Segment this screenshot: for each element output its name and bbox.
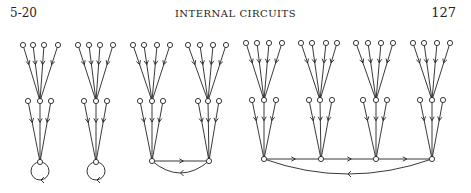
node xyxy=(25,98,30,103)
edge xyxy=(79,47,96,100)
node xyxy=(41,42,46,47)
node xyxy=(223,42,228,47)
node xyxy=(30,42,35,47)
node xyxy=(81,98,86,103)
edge xyxy=(33,48,40,101)
edge xyxy=(24,47,40,100)
node xyxy=(373,156,378,161)
node xyxy=(440,97,445,102)
node xyxy=(329,97,334,102)
node xyxy=(421,40,426,45)
edge xyxy=(144,48,152,101)
edge xyxy=(85,104,96,162)
edge xyxy=(368,46,376,100)
edge xyxy=(310,103,321,159)
edge xyxy=(40,104,50,162)
node xyxy=(390,40,395,45)
edge xyxy=(357,45,376,99)
edge xyxy=(257,46,264,100)
node xyxy=(318,156,323,161)
edge xyxy=(141,104,152,161)
node xyxy=(360,97,365,102)
node xyxy=(48,98,53,103)
node xyxy=(309,40,314,45)
edge xyxy=(321,103,331,159)
edge xyxy=(302,45,320,99)
node xyxy=(86,42,91,47)
edge xyxy=(424,46,432,100)
edge xyxy=(134,47,152,100)
node xyxy=(75,42,80,47)
node xyxy=(110,42,115,47)
node xyxy=(137,98,142,103)
node xyxy=(273,97,278,102)
node xyxy=(249,97,254,102)
node xyxy=(206,158,211,163)
node xyxy=(93,159,98,164)
edge xyxy=(40,47,57,100)
node xyxy=(37,159,42,164)
node xyxy=(384,97,389,102)
edge xyxy=(96,47,112,100)
node xyxy=(323,40,328,45)
node xyxy=(97,42,102,47)
node xyxy=(378,40,383,45)
node xyxy=(37,98,42,103)
node xyxy=(429,156,434,161)
internal-circuits-figure xyxy=(0,0,471,193)
node xyxy=(55,42,60,47)
node xyxy=(185,42,190,47)
node xyxy=(365,40,370,45)
edge xyxy=(189,47,208,100)
node xyxy=(434,40,439,45)
node xyxy=(149,98,154,103)
edge xyxy=(247,45,264,99)
edge xyxy=(364,103,376,159)
edge xyxy=(320,103,321,159)
edge xyxy=(376,103,386,159)
node xyxy=(167,42,172,47)
node xyxy=(410,40,415,45)
edge xyxy=(253,103,264,159)
node xyxy=(447,40,452,45)
node xyxy=(195,98,200,103)
node xyxy=(197,42,202,47)
node xyxy=(334,40,339,45)
node xyxy=(210,42,215,47)
node xyxy=(429,97,434,102)
edge xyxy=(96,48,100,101)
edge xyxy=(312,46,320,100)
node xyxy=(279,40,284,45)
edge xyxy=(200,48,208,101)
node xyxy=(141,42,146,47)
node xyxy=(298,40,303,45)
edge xyxy=(89,48,96,101)
edge xyxy=(96,104,106,162)
node xyxy=(417,97,422,102)
node xyxy=(93,98,98,103)
node xyxy=(266,40,271,45)
node xyxy=(243,40,248,45)
edge xyxy=(264,103,275,159)
node xyxy=(317,97,322,102)
edge xyxy=(414,45,432,99)
node xyxy=(160,98,165,103)
node xyxy=(261,156,266,161)
edge xyxy=(152,104,162,161)
node xyxy=(20,42,25,47)
node xyxy=(205,98,210,103)
node xyxy=(261,97,266,102)
node xyxy=(149,158,154,163)
node xyxy=(373,97,378,102)
edge xyxy=(198,104,208,161)
node xyxy=(104,98,109,103)
node xyxy=(254,40,259,45)
node xyxy=(216,98,221,103)
node xyxy=(353,40,358,45)
edge xyxy=(29,104,40,162)
edge xyxy=(209,104,218,161)
node xyxy=(154,42,159,47)
edge xyxy=(208,104,209,161)
node xyxy=(306,97,311,102)
edge xyxy=(421,103,432,159)
